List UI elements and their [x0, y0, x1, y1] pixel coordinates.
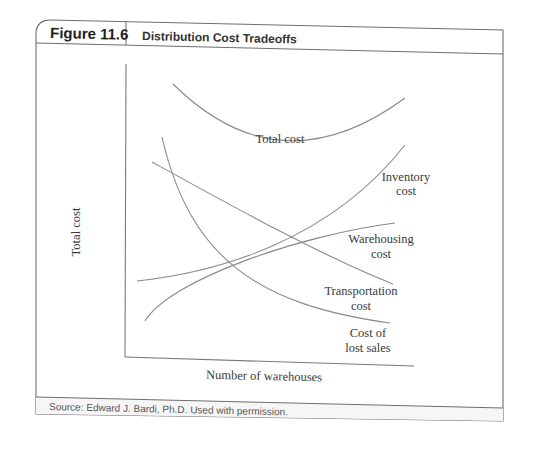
figure-frame: [36, 20, 503, 421]
label-transportation-line2: cost: [351, 299, 372, 313]
label-lost-sales-line1: Cost of: [350, 326, 387, 340]
label-inventory-line1: Inventory: [382, 170, 431, 184]
label-lost-sales-line2: lost sales: [345, 341, 391, 355]
figure-title: Distribution Cost Tradeoffs: [142, 29, 297, 47]
figure: Figure 11.6 Distribution Cost Tradeoffs …: [0, 0, 534, 451]
curve-transportation-cost: [152, 162, 393, 284]
curve-labels: Total cost Inventory cost Warehousing co…: [256, 132, 431, 355]
x-axis-label: Number of warehouses: [206, 368, 322, 385]
axes: [125, 64, 414, 366]
figure-number: Figure 11.6: [50, 24, 129, 43]
x-axis: [125, 357, 414, 366]
label-total-cost: Total cost: [256, 132, 305, 146]
y-axis-label: Total cost: [69, 207, 83, 256]
label-warehousing-line2: cost: [371, 247, 392, 261]
label-transportation-line1: Transportation: [324, 284, 398, 298]
frame-outline: [36, 20, 503, 421]
label-inventory-line2: cost: [396, 184, 417, 198]
curve-inventory-cost: [137, 145, 405, 281]
label-warehousing-line1: Warehousing: [348, 232, 414, 246]
y-axis: [125, 64, 126, 357]
